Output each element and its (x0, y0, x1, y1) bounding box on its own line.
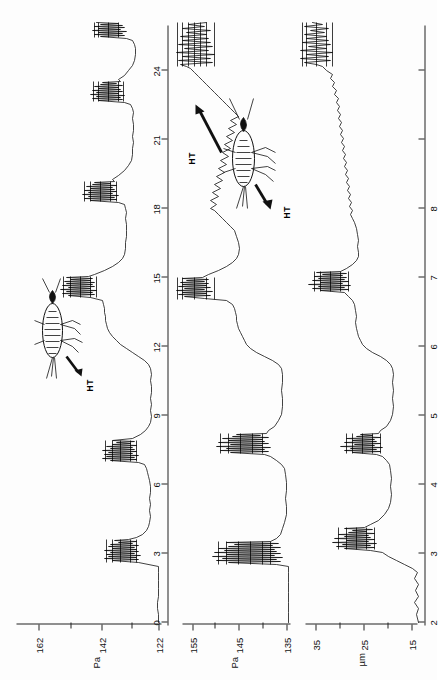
panel-3-trace-svg (300, 22, 422, 622)
panel-3-ylabel-25: 25 (358, 639, 369, 650)
panel-3-axis-title: µm (355, 653, 366, 666)
panel-3-ytick-20 (387, 622, 388, 628)
panel-3-ytick-35 (315, 624, 316, 630)
panel-3-ytick-25 (363, 624, 364, 630)
panel-3-ylabel-35: 35 (310, 639, 321, 650)
panel-3-ylabel-15: 15 (406, 639, 417, 650)
panel-3-ytick-15 (411, 624, 412, 630)
panel-3-value-axis-line (305, 623, 417, 624)
panel-3-ytick-30 (339, 622, 340, 628)
